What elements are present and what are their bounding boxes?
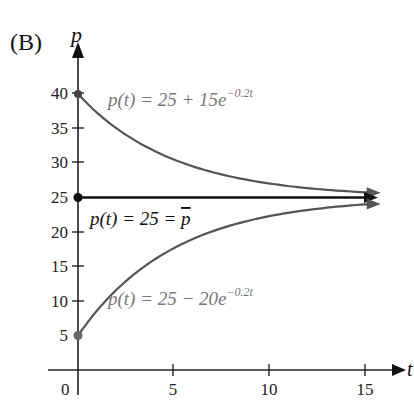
x-tick-5: 5 [169,380,178,399]
lower-curve-label: p(t) = 25 − 20e−0.2t [106,285,254,310]
upper-start-point [74,90,82,98]
lower-curve-arrow-icon [367,198,381,209]
panel-label: (B) [10,29,42,55]
y-ticks: 40 35 30 25 20 15 10 5 [51,84,84,345]
x-axis-arrow-icon [392,364,406,376]
chart: (B) p t 0 5 10 15 40 35 30 25 20 15 10 5 [0,0,414,401]
y-tick-25: 25 [51,188,68,207]
x-tick-15: 15 [357,380,374,399]
upper-curve-label: p(t) = 25 + 15e−0.2t [106,86,254,111]
y-tick-10: 10 [51,292,68,311]
lower-start-point [74,331,83,340]
equilibrium-start-point [74,193,83,202]
equilibrium-label: p(t) = 25 = p [88,208,191,230]
y-tick-35: 35 [51,119,68,138]
x-axis-label: t [407,358,413,380]
y-axis-label: p [69,22,82,47]
y-tick-20: 20 [51,223,68,242]
y-tick-40: 40 [51,84,68,103]
y-tick-15: 15 [51,257,68,276]
x-tick-10: 10 [261,380,278,399]
y-tick-5: 5 [60,326,69,345]
x-tick-0: 0 [61,380,70,399]
y-tick-30: 30 [51,153,68,172]
